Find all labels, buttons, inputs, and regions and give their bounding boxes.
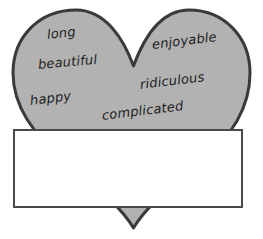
word-long: long (46, 25, 76, 41)
figure-canvas: long enjoyable beautiful ridiculous happ… (0, 0, 263, 239)
answer-box[interactable] (13, 129, 243, 208)
